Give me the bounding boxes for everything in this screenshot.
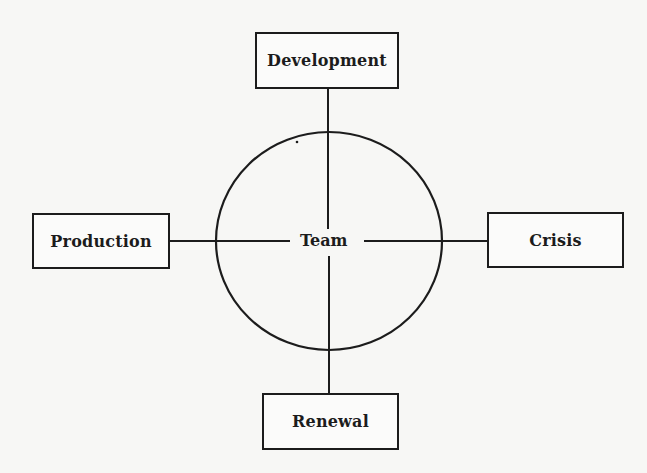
team-label: Team [294,231,354,251]
node-development: Development [255,32,399,89]
node-production: Production [32,213,170,269]
speck [296,141,299,144]
node-production-label: Production [50,232,151,251]
node-renewal: Renewal [262,393,399,450]
node-development-label: Development [267,51,387,70]
node-crisis: Crisis [487,212,624,268]
node-crisis-label: Crisis [529,231,582,250]
node-renewal-label: Renewal [292,412,369,431]
